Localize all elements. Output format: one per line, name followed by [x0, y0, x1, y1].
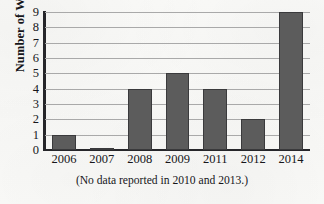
bar — [52, 135, 76, 150]
bar-chart-figure: Number of Words 0123456789 2006200720082… — [0, 0, 324, 204]
bar — [90, 148, 114, 150]
y-tick-label: 4 — [22, 82, 39, 95]
chart-caption: (No data reported in 2010 and 2013.) — [0, 174, 324, 187]
x-tick-label: 2007 — [89, 152, 114, 167]
x-tick-label: 2014 — [279, 152, 304, 167]
y-axis-tick-labels: 0123456789 — [22, 12, 39, 150]
x-tick-label: 2011 — [203, 152, 228, 167]
plot-area — [45, 12, 310, 150]
bar — [166, 73, 190, 150]
x-tick-label: 2006 — [51, 152, 76, 167]
x-tick-label: 2012 — [241, 152, 266, 167]
x-tick-label: 2008 — [127, 152, 152, 167]
bar — [203, 89, 227, 150]
y-tick-label: 1 — [22, 128, 39, 141]
y-tick-label: 5 — [22, 67, 39, 80]
x-axis-tick-labels: 2006200720082009201120122014 — [45, 152, 310, 170]
y-tick-label: 3 — [22, 98, 39, 111]
y-tick-label: 8 — [22, 21, 39, 34]
y-tick-label: 0 — [22, 144, 39, 157]
x-tick-label: 2009 — [165, 152, 190, 167]
bar-series — [45, 12, 310, 150]
y-tick-label: 6 — [22, 52, 39, 65]
bar — [241, 119, 265, 150]
bar — [128, 89, 152, 150]
y-tick-label: 9 — [22, 6, 39, 19]
y-tick-label: 2 — [22, 113, 39, 126]
y-tick-label: 7 — [22, 36, 39, 49]
bar — [279, 12, 303, 150]
